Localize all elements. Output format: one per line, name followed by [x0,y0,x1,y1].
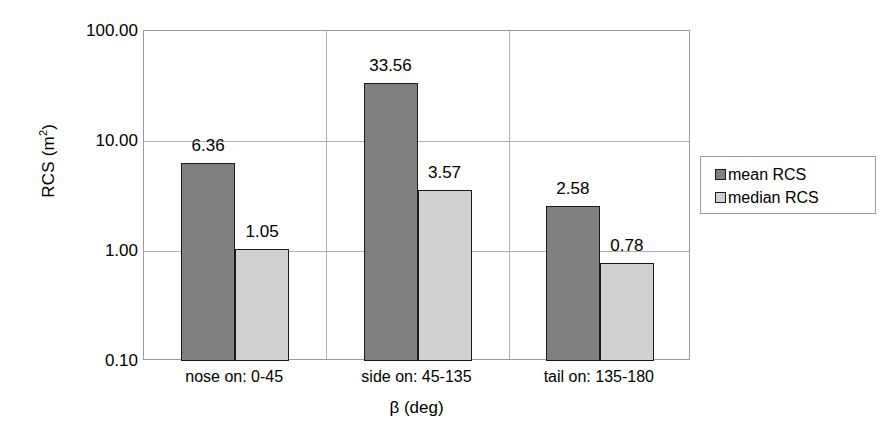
y-tick-label: 0.10 [60,352,138,369]
bar-median [600,263,654,361]
bar-value-label: 6.36 [161,137,255,154]
gridline-vertical [326,31,327,359]
y-axis-title-end: ) [39,124,58,130]
rcs-bar-chart: RCS (m2) 100.00 10.00 1.00 0.10 6.361.05… [0,0,886,442]
legend-entry-median: median RCS [715,186,875,209]
x-category-label: nose on: 0-45 [143,368,325,386]
x-category-label: tail on: 135-180 [508,368,690,386]
legend-swatch-mean-icon [715,169,726,180]
bar-mean [364,83,418,361]
legend-label-mean: mean RCS [728,167,806,183]
y-axis-tick-labels: 100.00 10.00 1.00 0.10 [60,0,138,442]
legend-label-median: median RCS [728,190,819,206]
bar-value-label: 3.57 [398,164,492,181]
y-tick-label: 100.00 [60,22,138,39]
bar-value-label: 1.05 [215,223,309,240]
bar-value-label: 2.58 [526,180,620,197]
y-axis-title-exponent: 2 [37,130,49,136]
bar-median [235,249,289,361]
y-axis-title-base: RCS (m [39,136,58,198]
bar-value-label: 0.78 [580,237,674,254]
bar-mean [546,206,600,361]
legend-swatch-median-icon [715,192,726,203]
bar-value-label: 33.56 [344,57,438,74]
y-axis-title: RCS (m2) [37,81,59,241]
plot-area: 6.361.0533.563.572.580.78 [143,30,690,360]
legend: mean RCS median RCS [700,156,876,214]
y-tick-label: 10.00 [60,132,138,149]
bar-mean [181,163,235,361]
bar-median [418,190,472,361]
legend-entry-mean: mean RCS [715,163,875,186]
x-category-label: side on: 45-135 [325,368,507,386]
y-tick-label: 1.00 [60,242,138,259]
x-axis-title: β (deg) [143,398,690,418]
gridline-vertical [509,31,510,359]
